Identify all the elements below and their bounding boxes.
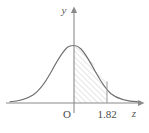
- x-tick-label-1-82: 1.82: [97, 108, 116, 120]
- figure-canvas: y z O 1.82: [0, 0, 149, 133]
- y-axis-arrow-icon: [71, 7, 77, 14]
- y-axis-label: y: [61, 4, 67, 16]
- x-axis-arrow-icon: [138, 100, 145, 106]
- origin-label: O: [63, 108, 71, 120]
- shaded-area-region: [74, 46, 107, 104]
- x-axis-label: z: [131, 107, 137, 119]
- normal-curve-figure: y z O 1.82: [0, 0, 149, 133]
